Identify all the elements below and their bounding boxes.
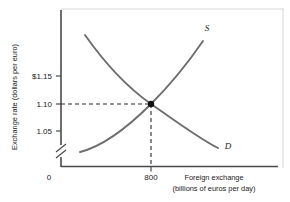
- y-tick-label-110: 1.10: [36, 100, 52, 109]
- supply-demand-chart: Exchange rate (dollars per euro) $1.15 1…: [0, 0, 290, 202]
- y-tick-label-115: $1.15: [32, 72, 53, 81]
- x-axis-title-line1: Foreign exchange: [184, 173, 243, 182]
- supply-curve-label: S: [205, 23, 210, 33]
- chart-figure: Exchange rate (dollars per euro) $1.15 1…: [0, 0, 290, 202]
- demand-curve-label: D: [224, 141, 232, 151]
- y-tick-label-105: 1.05: [36, 127, 52, 136]
- x-axis-title-line2: (billions of euros per day): [173, 184, 256, 193]
- y-axis-title: Exchange rate (dollars per euro): [10, 44, 19, 150]
- x-tick-label-origin: 0: [47, 173, 52, 182]
- equilibrium-point-marker: [148, 101, 154, 107]
- x-tick-label-800: 800: [144, 173, 158, 182]
